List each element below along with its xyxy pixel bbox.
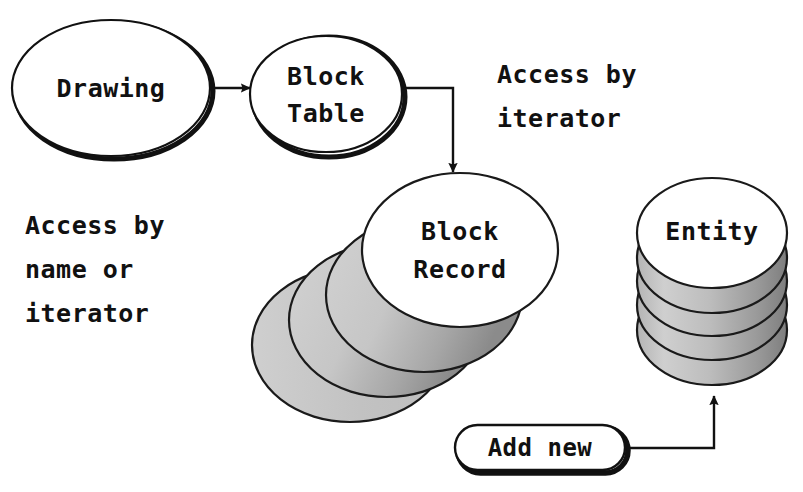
diagram-svg: Drawing Block Table Access by iterator A… (0, 0, 803, 492)
connector-elbow-path (404, 88, 453, 172)
connector-elbow-path (626, 396, 714, 448)
block-table-label-line2: Table (287, 99, 365, 128)
access-by-name-line1: Access by (25, 211, 165, 240)
add-new-label: Add new (488, 434, 593, 462)
node-drawing[interactable]: Drawing (12, 20, 213, 159)
block-table-ellipse (250, 36, 402, 152)
block-record-label-line2: Record (413, 255, 506, 284)
block-table-label-line1: Block (287, 62, 365, 91)
connector-block-table-to-block-record (404, 88, 453, 172)
node-block-table[interactable]: Block Table (250, 36, 405, 157)
node-block-record[interactable]: Block Record (252, 173, 558, 422)
drawing-label: Drawing (57, 74, 166, 103)
diagram-canvas: Drawing Block Table Access by iterator A… (0, 0, 803, 492)
annotation-access-by-iterator: Access by iterator (497, 60, 637, 133)
access-by-name-line2: name or (25, 255, 134, 284)
block-record-label-line1: Block (421, 217, 499, 246)
access-by-name-line3: iterator (25, 299, 149, 328)
block-record-disk-1 (362, 173, 558, 327)
entity-label: Entity (665, 217, 758, 246)
access-by-iterator-line2: iterator (497, 104, 621, 133)
node-entity[interactable]: Entity (637, 178, 787, 385)
annotation-access-by-name-or-iterator: Access by name or iterator (25, 211, 165, 328)
connector-add-new-to-entity (626, 396, 714, 448)
access-by-iterator-line1: Access by (497, 60, 637, 89)
node-add-new[interactable]: Add new (455, 425, 628, 473)
